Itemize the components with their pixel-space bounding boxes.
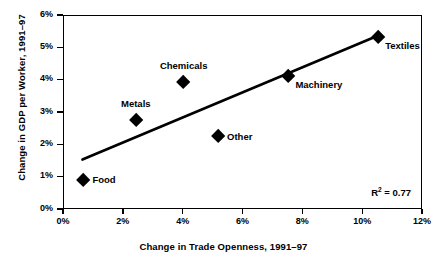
data-point-label: Machinery	[295, 79, 342, 90]
data-point-label: Textiles	[385, 40, 420, 51]
x-tick-label: 0%	[49, 216, 77, 226]
y-tick-label: 3%	[40, 106, 53, 116]
r-squared-annotation: R2 = 0.77	[371, 186, 411, 198]
data-point-label: Chemicals	[160, 60, 208, 71]
diamond-marker-icon	[371, 30, 386, 45]
diamond-marker-icon	[76, 173, 91, 188]
data-point-label: Food	[92, 174, 115, 185]
x-tick-mark	[242, 209, 243, 214]
x-tick-mark	[362, 209, 363, 214]
x-tick-label: 10%	[348, 216, 376, 226]
y-tick-label: 4%	[40, 73, 53, 83]
scatter-chart-figure: Change in GDP per Worker, 1991–97 0%1%2%…	[0, 0, 447, 262]
x-tick-mark	[302, 209, 303, 214]
data-point-label: Metals	[121, 98, 151, 109]
x-tick-mark	[122, 209, 123, 214]
data-point-label: Other	[227, 131, 252, 142]
x-axis-title: Change in Trade Openness, 1991–97	[0, 241, 447, 252]
x-tick-label: 4%	[169, 216, 197, 226]
x-tick-label: 6%	[229, 216, 257, 226]
y-tick-label: 1%	[40, 170, 53, 180]
diamond-marker-icon	[211, 129, 226, 144]
x-tick-mark	[62, 209, 63, 214]
plot-area: FoodMetalsChemicalsOtherMachineryTextile…	[63, 15, 422, 209]
diamond-marker-icon	[128, 113, 143, 128]
y-tick-label: 0%	[40, 203, 53, 213]
x-tick-mark	[421, 209, 422, 214]
y-tick-label: 2%	[40, 138, 53, 148]
y-axis-title: Change in GDP per Worker, 1991–97	[16, 0, 27, 198]
x-tick-label: 2%	[109, 216, 137, 226]
x-tick-label: 8%	[288, 216, 316, 226]
x-tick-mark	[182, 209, 183, 214]
y-tick-label: 6%	[40, 9, 53, 19]
y-tick-label: 5%	[40, 41, 53, 51]
diamond-marker-icon	[281, 68, 296, 83]
x-tick-label: 12%	[408, 216, 436, 226]
diamond-marker-icon	[176, 75, 191, 90]
